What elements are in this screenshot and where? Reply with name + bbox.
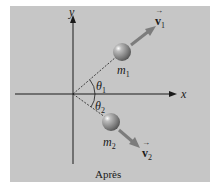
velocity-arrow-1 — [131, 26, 156, 45]
caption: Après — [95, 169, 121, 180]
velocity-1-label: v1 — [155, 15, 165, 30]
mass-1-label: m1 — [117, 64, 130, 79]
angle-arc-1 — [90, 80, 95, 94]
mass-2-ball — [102, 113, 120, 131]
velocity-arrow-2 — [119, 130, 140, 148]
x-axis-label: x — [181, 88, 186, 100]
y-axis — [70, 15, 76, 164]
angle-1-label: θ1 — [96, 80, 106, 95]
mass-2-label: m2 — [103, 136, 116, 151]
mass-1-ball — [113, 43, 131, 61]
velocity-2-label: v2 — [142, 147, 152, 162]
y-axis-label: y — [69, 6, 74, 18]
angle-2-label: θ2 — [95, 100, 105, 115]
